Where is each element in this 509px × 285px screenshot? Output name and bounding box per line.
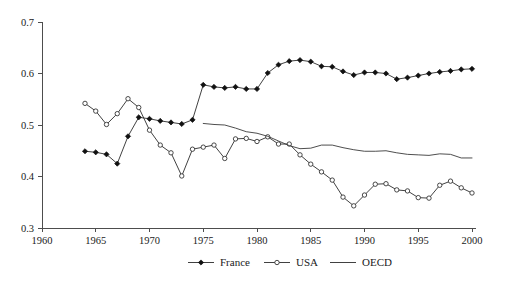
series-line-france	[85, 60, 472, 164]
data-point-france	[125, 134, 130, 139]
data-point-france	[93, 150, 98, 155]
data-point-usa	[169, 151, 173, 155]
data-point-usa	[94, 109, 98, 113]
data-point-usa	[137, 105, 141, 109]
x-axis-tick-label: 1970	[139, 235, 160, 246]
data-point-france	[437, 69, 442, 74]
x-axis-tick-label: 1990	[354, 235, 375, 246]
data-point-usa	[330, 178, 334, 182]
data-point-france	[362, 70, 367, 75]
legend-label-usa: USA	[296, 256, 318, 268]
data-point-usa	[276, 142, 280, 146]
legend-label-france: France	[220, 256, 250, 268]
x-axis-tick-label: 1960	[32, 235, 53, 246]
line-chart: 0.30.40.50.60.7 196019651970197519801985…	[0, 0, 509, 285]
data-point-usa	[255, 139, 259, 143]
data-point-usa	[373, 182, 377, 186]
data-point-france	[222, 85, 227, 90]
data-point-usa	[115, 111, 119, 115]
x-axis-tick-label: 1985	[300, 235, 321, 246]
data-point-france	[319, 64, 324, 69]
y-axis-tick-label: 0.7	[21, 17, 34, 28]
series-layer	[82, 58, 474, 209]
data-point-usa	[319, 170, 323, 174]
data-point-usa	[384, 182, 388, 186]
x-axis: 196019651970197519801985199019952000	[32, 228, 483, 246]
x-axis-tick-label: 1975	[193, 235, 214, 246]
data-point-france	[254, 86, 259, 91]
data-point-france	[168, 120, 173, 125]
data-point-france	[82, 149, 87, 154]
data-point-usa	[147, 128, 151, 132]
series-line-oecd	[203, 123, 472, 158]
x-axis-tick-label: 1995	[408, 235, 429, 246]
y-axis-tick-label: 0.6	[21, 68, 34, 79]
data-point-usa	[341, 195, 345, 199]
chart-legend: FranceUSAOECD	[188, 256, 392, 268]
data-point-usa	[190, 147, 194, 151]
data-point-france	[351, 72, 356, 77]
data-point-usa	[427, 196, 431, 200]
data-point-usa	[448, 179, 452, 183]
data-point-france	[330, 64, 335, 69]
chart-container: 0.30.40.50.60.7 196019651970197519801985…	[0, 0, 509, 285]
x-axis-tick-label: 1965	[85, 235, 106, 246]
data-point-usa	[158, 143, 162, 147]
data-point-france	[211, 84, 216, 89]
legend-label-oecd: OECD	[362, 256, 392, 268]
data-point-usa	[180, 174, 184, 178]
data-point-usa	[459, 186, 463, 190]
data-point-france	[448, 68, 453, 73]
data-point-france	[147, 116, 152, 121]
data-point-france	[297, 58, 302, 63]
data-point-usa	[223, 156, 227, 160]
data-point-france	[244, 86, 249, 91]
data-point-usa	[298, 153, 302, 157]
legend-marker-usa	[275, 260, 279, 264]
data-point-france	[383, 71, 388, 76]
y-axis-tick-label: 0.4	[21, 171, 35, 182]
data-point-usa	[352, 204, 356, 208]
data-point-france	[190, 117, 195, 122]
data-point-usa	[83, 101, 87, 105]
y-axis-tick-label: 0.5	[21, 120, 34, 131]
data-point-france	[340, 69, 345, 74]
data-point-usa	[395, 188, 399, 192]
data-point-france	[287, 59, 292, 64]
y-axis-tick-label: 0.3	[21, 223, 34, 234]
legend-marker-france	[198, 260, 203, 265]
data-point-usa	[470, 191, 474, 195]
x-axis-tick-label: 2000	[462, 235, 483, 246]
data-point-france	[469, 66, 474, 71]
series-line-usa	[85, 99, 472, 206]
data-point-usa	[438, 183, 442, 187]
data-point-france	[426, 71, 431, 76]
data-point-usa	[416, 195, 420, 199]
y-axis: 0.30.40.50.60.7	[21, 17, 42, 234]
data-point-usa	[309, 162, 313, 166]
data-point-usa	[405, 189, 409, 193]
data-point-france	[308, 59, 313, 64]
data-point-france	[179, 121, 184, 126]
data-point-france	[201, 82, 206, 87]
data-point-france	[394, 77, 399, 82]
data-point-usa	[212, 143, 216, 147]
data-point-usa	[126, 97, 130, 101]
x-axis-tick-label: 1980	[247, 235, 268, 246]
data-point-france	[233, 84, 238, 89]
data-point-france	[158, 118, 163, 123]
data-point-france	[416, 73, 421, 78]
data-point-usa	[233, 137, 237, 141]
data-point-france	[405, 75, 410, 80]
data-point-usa	[104, 122, 108, 126]
data-point-france	[136, 115, 141, 120]
data-point-usa	[362, 193, 366, 197]
data-point-france	[373, 70, 378, 75]
data-point-usa	[244, 136, 248, 140]
data-point-usa	[201, 145, 205, 149]
data-point-france	[459, 67, 464, 72]
